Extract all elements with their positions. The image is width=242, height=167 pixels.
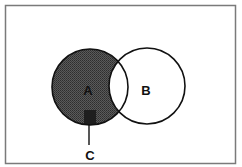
set-a-label: A [83,83,93,98]
venn-diagram: A B C [0,0,242,167]
set-b-label: B [141,83,150,98]
callout-c-marker [84,110,96,125]
callout-c-label: C [85,148,95,163]
